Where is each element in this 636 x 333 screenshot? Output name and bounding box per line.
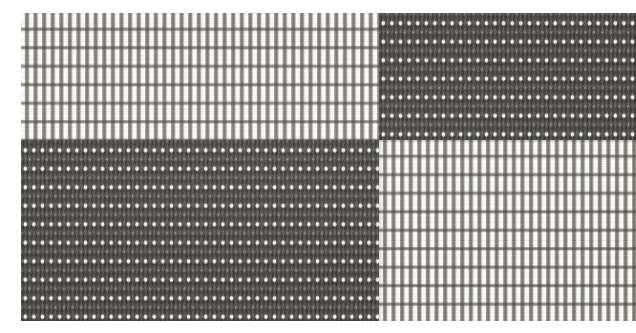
upper-right-dark-block xyxy=(379,13,636,140)
upper-left-light-block xyxy=(21,13,379,140)
matte-top xyxy=(0,0,636,13)
fabric-swatch xyxy=(21,13,636,321)
photograph-canvas: Close-up macro photograph of a plain-wov… xyxy=(0,0,636,333)
lower-right-light-block xyxy=(379,140,636,321)
matte-bottom xyxy=(0,321,636,333)
matte-left xyxy=(0,0,21,333)
lower-left-dark-block xyxy=(21,140,379,321)
